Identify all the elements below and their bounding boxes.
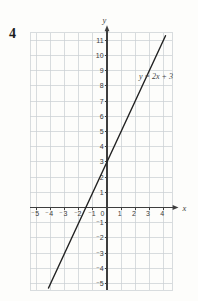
y-tick-label: ⁻1	[96, 219, 104, 226]
origin-label: 0	[100, 210, 104, 217]
x-tick-label: 3	[146, 210, 150, 217]
y-tick-label: 9	[100, 67, 104, 74]
y-tick-label: 6	[100, 113, 104, 120]
y-tick-label: 3	[100, 158, 104, 165]
y-tick-label: 10	[96, 52, 104, 59]
y-tick-label: 8	[100, 82, 104, 89]
x-tick-label: 1	[118, 210, 122, 217]
y-tick-label: 5	[100, 128, 104, 135]
y-axis-arrowhead	[105, 25, 110, 31]
graph: ⁻5⁻4⁻3⁻2⁻101234⁻5⁻4⁻3⁻2⁻11234567891011xy…	[0, 0, 198, 301]
y-axis-label: y	[102, 15, 107, 25]
x-tick-label: ⁻3	[59, 210, 67, 217]
y-tick-label: 4	[100, 143, 104, 150]
x-tick-label: ⁻1	[88, 210, 96, 217]
y-tick-label: 11	[96, 37, 103, 44]
x-tick-label: ⁻2	[74, 210, 82, 217]
y-tick-label: ⁻2	[96, 234, 104, 241]
y-tick-label: 1	[100, 189, 104, 196]
x-tick-label: ⁻5	[31, 210, 39, 217]
x-tick-label: ⁻4	[45, 210, 53, 217]
x-tick-label: 2	[132, 210, 136, 217]
x-axis-arrowhead	[173, 205, 179, 210]
x-tick-label: 4	[160, 210, 164, 217]
graph-svg: ⁻5⁻4⁻3⁻2⁻101234⁻5⁻4⁻3⁻2⁻11234567891011xy…	[0, 0, 198, 301]
y-tick-label: ⁻5	[96, 280, 104, 287]
x-axis-label: x	[182, 203, 187, 213]
y-tick-label: ⁻3	[96, 250, 104, 257]
y-tick-label: 7	[100, 98, 104, 105]
y-tick-label: ⁻4	[96, 265, 104, 272]
equation-label: y = 2x + 3	[138, 72, 173, 81]
